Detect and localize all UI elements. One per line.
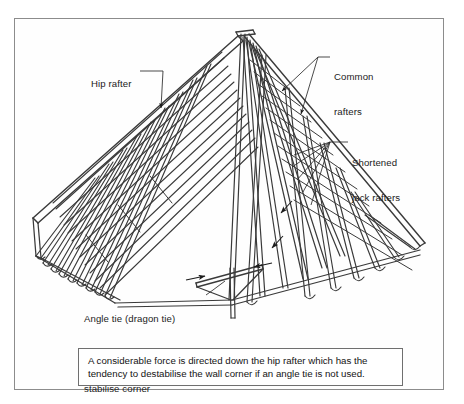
label-angle-tie: Angle tie (dragon tie) across wallplate … (84, 290, 175, 404)
caption-line1: A considerable force is directed down th… (88, 355, 393, 368)
label-angle-tie-line1: Angle tie (dragon tie) (84, 313, 175, 325)
label-common-rafters: Common rafters (334, 48, 374, 141)
label-jack-rafters-line2: jack rafters (352, 192, 400, 204)
label-jack-rafters-line1: Shortened (352, 157, 400, 169)
label-hip-rafter: Hip rafter (80, 66, 132, 101)
label-shortened-jack-rafters: Shortened jack rafters (352, 134, 400, 227)
label-common-rafters-line2: rafters (334, 106, 374, 118)
label-hip-rafter-text: Hip rafter (91, 78, 131, 89)
roof-framing-figure: Hip rafter Common rafters Shortened jack… (0, 0, 464, 404)
label-common-rafters-line1: Common (334, 71, 374, 83)
caption-box: A considerable force is directed down th… (78, 348, 403, 386)
caption-line2: tendency to destabilise the wall corner … (88, 368, 393, 381)
